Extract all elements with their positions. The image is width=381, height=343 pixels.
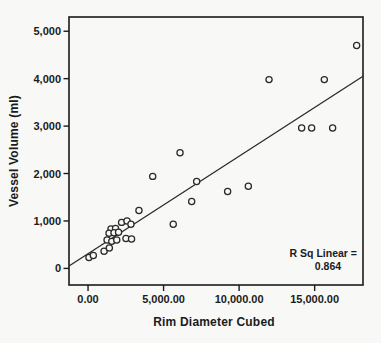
x-tick-label: 0.00	[77, 293, 98, 305]
x-axis-title: Rim Diameter Cubed	[153, 315, 275, 329]
data-point	[194, 178, 200, 184]
scatter-plot-canvas: 0.005,000.0010,000.0015,000.00 01,0002,0…	[0, 0, 381, 343]
data-point	[177, 150, 183, 156]
data-point	[189, 198, 195, 204]
x-axis-ticks: 0.005,000.0010,000.0015,000.00	[77, 285, 339, 305]
data-point	[106, 245, 112, 251]
data-point	[321, 77, 327, 83]
regression-line	[69, 76, 363, 266]
data-point	[354, 42, 360, 48]
y-tick-label: 0	[55, 262, 61, 274]
y-tick-label: 1,000	[33, 215, 61, 227]
data-point	[90, 252, 96, 258]
r-squared-value: 0.864	[315, 260, 341, 272]
data-point	[330, 125, 336, 131]
data-point	[299, 125, 305, 131]
scatter-figure: 0.005,000.0010,000.0015,000.00 01,0002,0…	[0, 0, 381, 343]
y-tick-label: 2,000	[33, 168, 61, 180]
r-squared-label: R Sq Linear =	[290, 247, 357, 259]
y-axis-title: Vessel Volume (ml)	[7, 95, 21, 207]
data-point	[170, 221, 176, 227]
regression-line-group	[69, 76, 363, 266]
y-axis-ticks: 01,0002,0003,0004,0005,000	[33, 25, 69, 274]
data-point	[309, 125, 315, 131]
data-point	[225, 188, 231, 194]
y-tick-label: 5,000	[33, 25, 61, 37]
y-tick-label: 3,000	[33, 120, 61, 132]
x-tick-label: 10,000.00	[215, 293, 264, 305]
x-tick-label: 15,000.00	[290, 293, 339, 305]
data-point	[115, 229, 121, 235]
data-point	[128, 236, 134, 242]
data-point	[150, 173, 156, 179]
data-point	[128, 221, 134, 227]
data-point	[136, 207, 142, 213]
y-tick-label: 4,000	[33, 73, 61, 85]
data-point	[266, 77, 272, 83]
x-tick-label: 5,000.00	[142, 293, 185, 305]
data-points-group	[86, 42, 360, 260]
data-point	[245, 183, 251, 189]
data-point	[114, 237, 120, 243]
